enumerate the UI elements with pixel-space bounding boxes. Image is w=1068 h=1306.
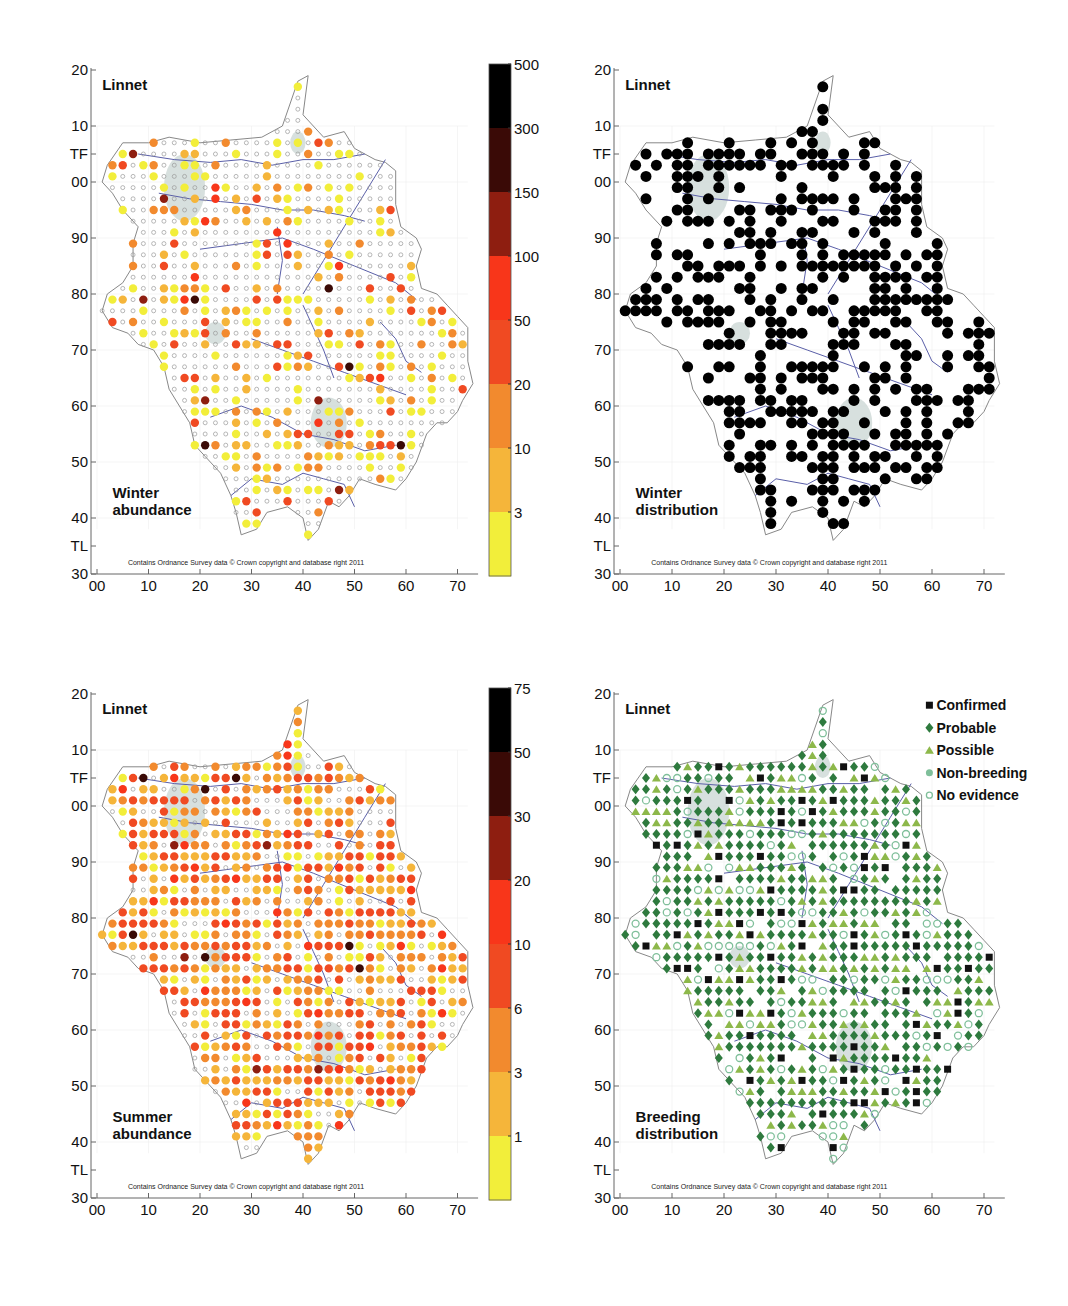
colorbar-label: 3 [514, 504, 522, 521]
x-tick-label: 00 [612, 1201, 629, 1218]
map-caption: Winter [112, 484, 159, 501]
y-tick-label: TL [593, 1161, 611, 1178]
x-tick-label: 60 [924, 1201, 941, 1218]
x-tick-label: 10 [664, 577, 681, 594]
map-caption: distribution [636, 1125, 719, 1142]
y-tick-label: 20 [594, 61, 611, 78]
colorbar-label: 75 [514, 680, 531, 697]
y-tick-label: 00 [594, 797, 611, 814]
y-tick-label: 60 [594, 397, 611, 414]
y-tick-label: 20 [594, 685, 611, 702]
legend-item-label: Non-breeding [936, 765, 1027, 781]
map-content: 2010TF00908070605040TL300010203040506070… [70, 56, 539, 594]
x-tick-label: 10 [140, 1201, 157, 1218]
y-tick-label: 40 [594, 509, 611, 526]
x-tick-label: 20 [192, 577, 209, 594]
map-svg: 2010TF00908070605040TL300010203040506070… [0, 0, 540, 620]
y-tick-label: 60 [594, 1021, 611, 1038]
y-tick-label: TL [70, 537, 88, 554]
y-tick-label: TL [70, 1161, 88, 1178]
y-tick-label: 10 [71, 117, 88, 134]
y-tick-label: 40 [594, 1133, 611, 1150]
river [277, 851, 282, 918]
x-tick-label: 50 [346, 577, 363, 594]
x-tick-label: 20 [716, 1201, 733, 1218]
x-tick-label: 60 [398, 577, 415, 594]
y-tick-label: 80 [71, 909, 88, 926]
y-tick-label: 60 [71, 1021, 88, 1038]
colorbar: 5003001501005020103 [489, 56, 539, 577]
colorbar-label: 1 [514, 1128, 522, 1145]
y-tick-label: 10 [71, 741, 88, 758]
y-tick-label: 20 [71, 685, 88, 702]
legend-item-label: Confirmed [936, 697, 1006, 713]
y-tick-label: 70 [594, 341, 611, 358]
x-tick-label: 70 [976, 577, 993, 594]
y-tick-label: 70 [594, 965, 611, 982]
colorbar-label: 10 [514, 440, 531, 457]
y-tick-label: 70 [71, 341, 88, 358]
colorbar-label: 20 [514, 872, 531, 889]
map-content: 2010TF00908070605040TL300010203040506070… [70, 680, 531, 1218]
y-tick-label: 50 [594, 1077, 611, 1094]
x-tick-label: 60 [398, 1201, 415, 1218]
x-tick-label: 40 [820, 577, 837, 594]
map-svg: 2010TF00908070605040TL300010203040506070… [534, 622, 1068, 1242]
x-tick-label: 20 [716, 577, 733, 594]
y-tick-label: 80 [594, 909, 611, 926]
colorbar-label: 20 [514, 376, 531, 393]
y-tick-label: 70 [71, 965, 88, 982]
x-tick-label: 00 [612, 577, 629, 594]
colorbar-label: 10 [514, 936, 531, 953]
y-tick-label: 30 [71, 565, 88, 582]
x-tick-label: 20 [192, 1201, 209, 1218]
y-tick-label: 60 [71, 397, 88, 414]
y-tick-label: TF [593, 769, 611, 786]
map-panel-breeding-distribution: 2010TF00908070605040TL300010203040506070… [534, 622, 1068, 1242]
map-panel-winter-distribution: 2010TF00908070605040TL300010203040506070… [534, 0, 1068, 620]
y-tick-label: 40 [71, 1133, 88, 1150]
y-tick-label: 00 [594, 173, 611, 190]
y-tick-label: 50 [71, 453, 88, 470]
y-tick-label: 30 [594, 565, 611, 582]
x-tick-label: 40 [295, 1201, 312, 1218]
y-tick-label: 50 [594, 453, 611, 470]
colorbar: 7550302010631 [489, 680, 531, 1201]
map-caption: abundance [112, 1125, 191, 1142]
copyright-notice: Contains Ordnance Survey data © Crown co… [651, 1183, 887, 1191]
x-tick-label: 40 [295, 577, 312, 594]
x-tick-label: 30 [243, 577, 260, 594]
x-tick-label: 30 [243, 1201, 260, 1218]
x-tick-label: 50 [346, 1201, 363, 1218]
x-tick-label: 00 [89, 577, 106, 594]
x-tick-label: 50 [872, 577, 889, 594]
map-caption: distribution [636, 501, 719, 518]
y-tick-label: 50 [71, 1077, 88, 1094]
tetrad-markers [100, 83, 467, 539]
y-tick-label: 90 [71, 229, 88, 246]
map-svg: 2010TF00908070605040TL300010203040506070… [534, 0, 1068, 620]
x-tick-label: 70 [976, 1201, 993, 1218]
y-tick-label: 00 [71, 797, 88, 814]
y-tick-label: TF [593, 145, 611, 162]
map-caption: Winter [636, 484, 683, 501]
x-tick-label: 70 [449, 1201, 466, 1218]
river [802, 851, 807, 918]
y-tick-label: 90 [71, 853, 88, 870]
x-tick-label: 10 [140, 577, 157, 594]
y-tick-label: 90 [594, 853, 611, 870]
y-tick-label: 20 [71, 61, 88, 78]
x-tick-label: 60 [924, 577, 941, 594]
y-tick-label: 40 [71, 509, 88, 526]
river [906, 322, 948, 372]
y-tick-label: 10 [594, 741, 611, 758]
x-tick-label: 30 [768, 577, 785, 594]
legend-item-label: Possible [936, 742, 994, 758]
legend-item-label: Probable [936, 720, 996, 736]
x-tick-label: 40 [820, 1201, 837, 1218]
legend: ConfirmedProbablePossibleNon-breedingNo … [925, 697, 1028, 803]
map-caption: abundance [112, 501, 191, 518]
colorbar-label: 6 [514, 1000, 522, 1017]
map-content: 2010TF00908070605040TL300010203040506070… [593, 685, 1028, 1218]
map-panel-winter-abundance: 2010TF00908070605040TL300010203040506070… [0, 0, 540, 620]
